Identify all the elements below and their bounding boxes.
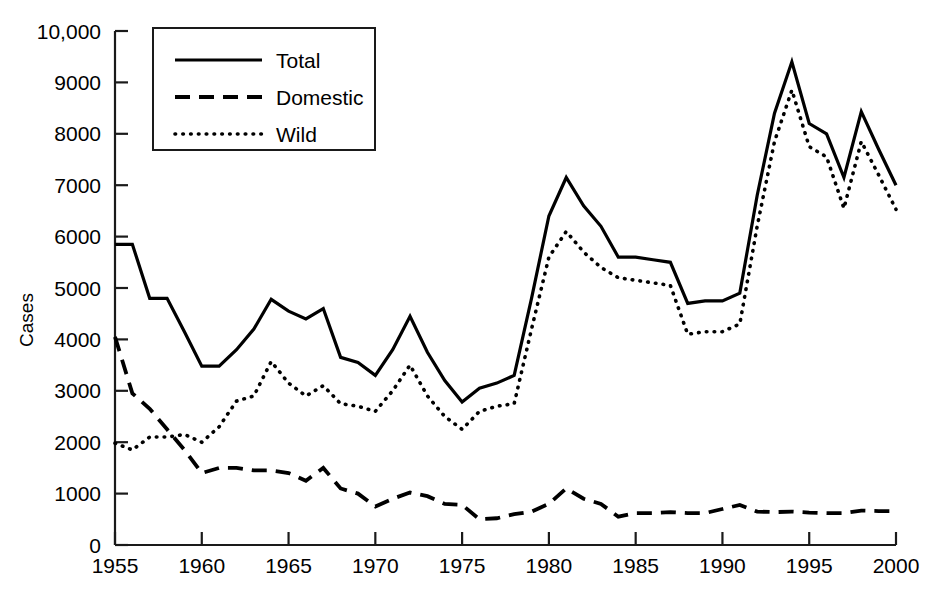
y-tick-label: 6000 bbox=[54, 225, 101, 248]
x-tick-label: 1975 bbox=[439, 554, 486, 577]
x-axis-group: 1955196019651970197519801985199019952000 bbox=[92, 532, 920, 577]
y-tick-label: 2000 bbox=[54, 431, 101, 454]
x-axis-ticks bbox=[115, 532, 896, 545]
y-tick-label: 8000 bbox=[54, 122, 101, 145]
y-tick-label: 3000 bbox=[54, 379, 101, 402]
y-tick-label: 1000 bbox=[54, 482, 101, 505]
y-axis-title: Cases bbox=[16, 293, 37, 347]
x-axis-tick-labels: 1955196019651970197519801985199019952000 bbox=[92, 554, 920, 577]
x-tick-label: 2000 bbox=[873, 554, 920, 577]
legend-label-total: Total bbox=[276, 49, 320, 72]
y-tick-label: 9000 bbox=[54, 71, 101, 94]
y-axis-group: 010002000300040005000600070008000900010,… bbox=[37, 20, 128, 557]
x-tick-label: 1980 bbox=[526, 554, 573, 577]
y-axis-tick-labels: 010002000300040005000600070008000900010,… bbox=[37, 20, 101, 557]
legend-label-wild: Wild bbox=[276, 123, 317, 146]
legend-label-domestic: Domestic bbox=[276, 86, 364, 109]
x-tick-label: 1985 bbox=[612, 554, 659, 577]
y-tick-label: 10,000 bbox=[37, 20, 101, 43]
x-tick-label: 1970 bbox=[352, 554, 399, 577]
x-tick-label: 1965 bbox=[265, 554, 312, 577]
chart-container: 010002000300040005000600070008000900010,… bbox=[0, 0, 937, 600]
y-tick-label: 7000 bbox=[54, 174, 101, 197]
legend: TotalDomesticWild bbox=[153, 28, 375, 150]
x-tick-label: 1995 bbox=[786, 554, 833, 577]
x-tick-label: 1955 bbox=[92, 554, 139, 577]
y-axis-ticks bbox=[115, 31, 128, 545]
y-tick-label: 4000 bbox=[54, 328, 101, 351]
series-line-domestic bbox=[115, 337, 896, 519]
y-tick-label: 5000 bbox=[54, 277, 101, 300]
x-tick-label: 1960 bbox=[178, 554, 225, 577]
x-tick-label: 1990 bbox=[699, 554, 746, 577]
line-chart: 010002000300040005000600070008000900010,… bbox=[0, 0, 937, 600]
